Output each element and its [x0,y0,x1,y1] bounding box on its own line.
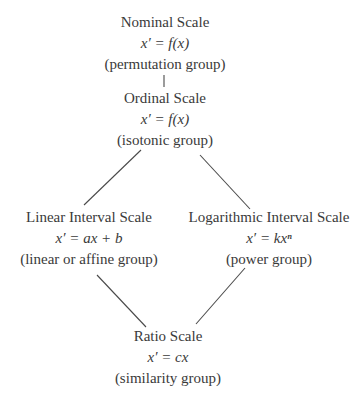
node-formula: x′ = cx [94,347,242,368]
node-group: (similarity group) [94,368,242,389]
node-ordinal-scale: Ordinal Scale x′ = f(x) (isotonic group) [84,88,246,151]
node-group: (permutation group) [84,54,246,75]
edge-ordinal-linear [84,150,141,205]
node-nominal-scale: Nominal Scale x′ = f(x) (permutation gro… [84,12,246,75]
node-group: (power group) [182,249,356,270]
node-ratio-scale: Ratio Scale x′ = cx (similarity group) [94,326,242,389]
node-title: Ratio Scale [94,326,242,347]
node-title: Linear Interval Scale [4,207,174,228]
node-formula: x′ = f(x) [84,33,246,54]
node-title: Nominal Scale [84,12,246,33]
node-linear-interval-scale: Linear Interval Scale x′ = ax + b (linea… [4,207,174,270]
edge-linear-ratio [97,275,146,327]
node-formula: x′ = ax + b [4,228,174,249]
node-formula: x′ = kxⁿ [182,228,356,249]
node-title: Ordinal Scale [84,88,246,109]
node-group: (isotonic group) [84,130,246,151]
node-group: (linear or affine group) [4,249,174,270]
node-formula: x′ = f(x) [84,109,246,130]
edge-ordinal-logarithmic [200,155,250,209]
edge-logarithmic-ratio [196,268,245,324]
node-logarithmic-interval-scale: Logarithmic Interval Scale x′ = kxⁿ (pow… [182,207,356,270]
node-title: Logarithmic Interval Scale [182,207,356,228]
